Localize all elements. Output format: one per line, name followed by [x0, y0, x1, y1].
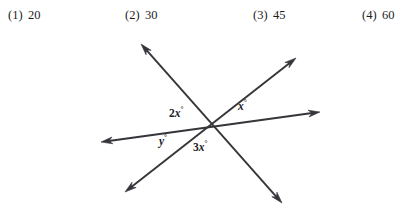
angle-label-3x: 3x°	[193, 142, 208, 154]
answer-choice-2[interactable]: (2)30	[125, 8, 158, 23]
answer-choice-3-tag: (3)	[253, 8, 268, 23]
angle-label-2x: 2x°	[169, 108, 184, 120]
answer-choice-4-value: 60	[382, 8, 395, 23]
lines-group	[107, 48, 314, 198]
answer-choice-3[interactable]: (3)45	[253, 8, 286, 23]
intersecting-lines-diagram: 2x° x° y° 3x°	[0, 28, 419, 214]
answer-choice-2-tag: (2)	[125, 8, 140, 23]
answer-choice-4-tag: (4)	[362, 8, 377, 23]
answer-choice-3-value: 45	[273, 8, 286, 23]
line-left-to-right	[107, 113, 314, 141]
answer-choices: (1)20 (2)30 (3)45 (4)60	[0, 0, 419, 30]
answer-choice-1-value: 20	[28, 8, 41, 23]
diagram-canvas	[0, 28, 419, 214]
angle-label-y: y°	[159, 136, 167, 148]
question-figure-page: (1)20 (2)30 (3)45 (4)60 2x° x° y° 3x°	[0, 0, 419, 214]
answer-choice-1-tag: (1)	[8, 8, 23, 23]
answer-choice-1[interactable]: (1)20	[8, 8, 41, 23]
angle-label-x: x°	[238, 101, 247, 113]
answer-choice-4[interactable]: (4)60	[362, 8, 395, 23]
answer-choice-2-value: 30	[145, 8, 158, 23]
line-lower-left-to-upper-right	[130, 62, 292, 189]
